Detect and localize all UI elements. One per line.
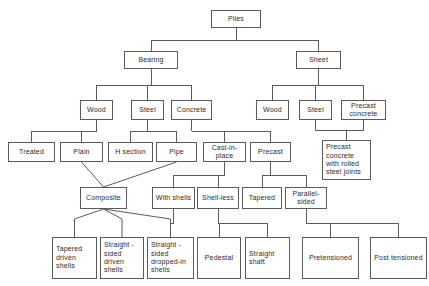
node-tapered: Tapered (242, 187, 282, 209)
piles-classification-diagram: PilesBearingSheetWoodSteelConcreteWoodSt… (0, 0, 429, 286)
edge-composite-to-straight-sided-driven-shells (104, 209, 123, 237)
node-posttensioned: Post tensioned (370, 237, 427, 279)
node-precast-concrete-s: Precast concrete (341, 100, 386, 120)
node-pretensioned: Pretensioned (302, 237, 359, 279)
node-precast-b: Precast (250, 142, 291, 162)
edge-composite-to-tapered-driven-shells (75, 209, 104, 237)
node-piles: Piles (211, 10, 261, 28)
node-concrete-b: Concrete (171, 100, 212, 120)
node-treated: Treated (8, 142, 55, 162)
node-bearing: Bearing (124, 51, 178, 69)
node-tapered-driven-shells: Tapered driven shells (52, 237, 97, 279)
edge-composite-to-straight-sided-dropped-in-shells (104, 209, 171, 237)
node-straight-shaft: Straight shaft (245, 237, 290, 279)
node-cast-in-place: Cast-in- place (203, 142, 246, 162)
node-sheet: Sheet (296, 51, 341, 69)
node-pedestal: Pedestal (197, 237, 241, 279)
edge-pipe-to-composite (104, 162, 177, 187)
node-wood-b: Wood (80, 100, 113, 120)
node-pipe: Pipe (156, 142, 197, 162)
node-parallel-sided: Parallel- sided (285, 187, 327, 209)
edge-precast-concrete-s-to-precast-rolled-joints (347, 120, 364, 140)
node-wood-s: Wood (256, 100, 289, 120)
node-steel-b: Steel (131, 100, 164, 120)
node-steel-s: Steel (299, 100, 332, 120)
edge-plain-to-composite (82, 162, 104, 187)
node-shell-less: Shell-less (197, 187, 239, 209)
edge-steel-s-to-precast-rolled-joints (316, 120, 347, 140)
node-straight-sided-dropped-in-shells: Straight - sided dropped-in shells (147, 237, 194, 279)
node-h-section: H section (108, 142, 153, 162)
node-straight-sided-driven-shells: Straight - sided driven shells (100, 237, 144, 279)
node-plain: Plain (60, 142, 103, 162)
node-with-shells: With shells (152, 187, 195, 209)
node-precast-rolled-joints: Precast concrete with rolled steel joint… (322, 140, 371, 180)
node-composite: Composite (80, 187, 127, 209)
